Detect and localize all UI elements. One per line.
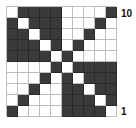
grid-cell (73, 62, 84, 73)
grid-cell (73, 29, 84, 40)
grid-cell (7, 84, 18, 95)
grid-cell (84, 95, 95, 106)
grid-cell (62, 84, 73, 95)
grid-cell (106, 51, 117, 62)
grid-cell (73, 40, 84, 51)
grid-cell (29, 7, 40, 18)
grid-cell (73, 73, 84, 84)
grid-cell (7, 106, 18, 117)
grid-cell (7, 18, 18, 29)
grid-cell (51, 106, 62, 117)
grid-cell (95, 40, 106, 51)
grid-cell (106, 62, 117, 73)
grid-cell (29, 84, 40, 95)
grid-cell (95, 95, 106, 106)
grid-cell (51, 73, 62, 84)
grid-cell (106, 29, 117, 40)
grid-cell (73, 51, 84, 62)
grid-cell (18, 7, 29, 18)
grid-cell (95, 84, 106, 95)
grid-cell (18, 95, 29, 106)
grid-cell (73, 7, 84, 18)
grid-cell (18, 51, 29, 62)
grid-cell (106, 7, 117, 18)
grid-cell (62, 18, 73, 29)
grid-cell (7, 62, 18, 73)
grid-cell (73, 84, 84, 95)
grid-cell (84, 106, 95, 117)
grid-cell (84, 84, 95, 95)
grid-cell (40, 62, 51, 73)
grid-cell (106, 95, 117, 106)
grid-cell (51, 51, 62, 62)
grid-cell (40, 106, 51, 117)
grid-cell (62, 40, 73, 51)
grid-cell (7, 29, 18, 40)
grid-cell (84, 51, 95, 62)
grid-cell (40, 73, 51, 84)
grid-cell (84, 62, 95, 73)
grid-cell (95, 73, 106, 84)
grid-cell (51, 18, 62, 29)
grid-cell (7, 40, 18, 51)
grid-cell (29, 95, 40, 106)
grid-cell (51, 29, 62, 40)
grid-cell (62, 95, 73, 106)
grid-cell (18, 62, 29, 73)
grid-cell (84, 7, 95, 18)
row-label-top: 10 (121, 9, 132, 19)
grid-cell (51, 95, 62, 106)
grid-cell (40, 7, 51, 18)
grid-cell (62, 7, 73, 18)
grid-cell (73, 106, 84, 117)
grid-cell (84, 18, 95, 29)
grid-cell (7, 73, 18, 84)
grid-cell (106, 106, 117, 117)
grid-cell (7, 95, 18, 106)
grid-cell (51, 40, 62, 51)
grid-cell (40, 40, 51, 51)
grid-cell (73, 95, 84, 106)
grid-cell (18, 18, 29, 29)
grid-cell (7, 7, 18, 18)
grid-cell (106, 84, 117, 95)
grid-cell (29, 106, 40, 117)
grid-cell (95, 62, 106, 73)
grid-cell (95, 106, 106, 117)
grid-cell (40, 18, 51, 29)
grid-cell (29, 51, 40, 62)
grid-cell (84, 29, 95, 40)
grid-cell (62, 106, 73, 117)
grid-cell (51, 84, 62, 95)
grid-cell (62, 51, 73, 62)
grid-cell (62, 62, 73, 73)
grid-cell (73, 18, 84, 29)
row-label-bottom: 1 (121, 107, 127, 117)
grid-cell (29, 62, 40, 73)
grid-cell (106, 18, 117, 29)
grid-cell (29, 73, 40, 84)
grid-cell (95, 29, 106, 40)
grid-cell (95, 51, 106, 62)
grid-cell (51, 62, 62, 73)
grid-cell (18, 29, 29, 40)
grid-cell (95, 7, 106, 18)
grid-cell (40, 51, 51, 62)
grid-cell (62, 29, 73, 40)
grid-cell (29, 29, 40, 40)
grid-cell (18, 84, 29, 95)
grid-cell (18, 40, 29, 51)
grid-cell (7, 51, 18, 62)
grid-cell (29, 18, 40, 29)
grid-cell (106, 40, 117, 51)
grid-cell (106, 73, 117, 84)
grid-cell (95, 18, 106, 29)
grid-cell (40, 29, 51, 40)
grid-cell (29, 40, 40, 51)
grid-cell (84, 40, 95, 51)
grid-cell (51, 7, 62, 18)
grid-cell (18, 73, 29, 84)
grid-cell (18, 106, 29, 117)
pattern-grid (6, 6, 116, 116)
grid-cell (62, 73, 73, 84)
